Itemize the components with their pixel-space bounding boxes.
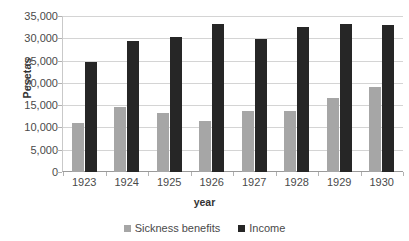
bar-chart: Pesetas 35,00030,00025,00020,00015,00010…: [0, 0, 409, 241]
bar-group: [148, 16, 191, 172]
legend-label: Sickness benefits: [135, 222, 221, 234]
bar-sickness-benefits-1929[interactable]: [327, 98, 339, 172]
y-tick-label: 25,000: [0, 56, 58, 67]
bar-sickness-benefits-1926[interactable]: [199, 121, 211, 172]
x-tick-mark: [233, 172, 234, 176]
x-tick-mark: [63, 172, 64, 176]
y-tick-label: 35,000: [0, 11, 58, 22]
bar-income-1928[interactable]: [297, 27, 309, 172]
bar-sickness-benefits-1924[interactable]: [114, 107, 126, 172]
x-tick-mark: [106, 172, 107, 176]
chart-legend: Sickness benefitsIncome: [0, 222, 409, 234]
bar-sickness-benefits-1930[interactable]: [369, 87, 381, 172]
x-axis-title: year: [0, 196, 409, 208]
bar-income-1926[interactable]: [212, 24, 224, 172]
bar-group: [276, 16, 319, 172]
bar-group: [191, 16, 234, 172]
x-tick-label-1925: 1925: [148, 176, 191, 188]
square-marker-gray: [124, 225, 131, 232]
y-tick-mark: [57, 83, 62, 84]
y-tick-mark: [57, 150, 62, 151]
bar-group: [63, 16, 106, 172]
bar-group: [106, 16, 149, 172]
bar-income-1923[interactable]: [85, 62, 97, 172]
x-tick-mark: [318, 172, 319, 176]
y-tick-mark: [57, 38, 62, 39]
bar-income-1927[interactable]: [255, 39, 267, 172]
bar-sickness-benefits-1927[interactable]: [242, 111, 254, 172]
bar-sickness-benefits-1923[interactable]: [72, 123, 84, 172]
y-tick-label: 5,000: [0, 145, 58, 156]
x-tick-label-1926: 1926: [191, 176, 234, 188]
x-tick-mark: [276, 172, 277, 176]
x-tick-label-1929: 1929: [318, 176, 361, 188]
bar-sickness-benefits-1928[interactable]: [284, 111, 296, 173]
x-tick-label-1923: 1923: [63, 176, 106, 188]
legend-item-income[interactable]: Income: [238, 222, 285, 234]
bar-group: [361, 16, 404, 172]
x-tick-mark: [148, 172, 149, 176]
x-tick-label-1924: 1924: [106, 176, 149, 188]
x-tick-label-1930: 1930: [361, 176, 404, 188]
y-tick-mark: [57, 16, 62, 17]
bar-sickness-benefits-1925[interactable]: [157, 113, 169, 172]
y-tick-mark: [57, 61, 62, 62]
legend-item-sickness-benefits[interactable]: Sickness benefits: [124, 222, 221, 234]
bar-group: [318, 16, 361, 172]
x-axis-labels: 19231924192519261927192819291930: [63, 176, 403, 188]
x-tick-label-1927: 1927: [233, 176, 276, 188]
legend-label: Income: [249, 222, 285, 234]
bar-income-1924[interactable]: [127, 41, 139, 172]
x-tick-mark: [403, 172, 404, 176]
x-tick-mark: [361, 172, 362, 176]
x-tick-label-1928: 1928: [276, 176, 319, 188]
bar-group: [233, 16, 276, 172]
y-tick-mark: [57, 172, 62, 173]
bar-income-1925[interactable]: [170, 37, 182, 172]
square-marker-black: [238, 225, 245, 232]
y-tick-label: 20,000: [0, 78, 58, 89]
y-tick-label: 10,000: [0, 122, 58, 133]
y-tick-mark: [57, 105, 62, 106]
y-tick-label: 15,000: [0, 100, 58, 111]
bar-income-1930[interactable]: [382, 25, 394, 172]
bar-income-1929[interactable]: [340, 24, 352, 172]
x-tick-mark: [191, 172, 192, 176]
y-tick-label: 30,000: [0, 33, 58, 44]
bar-groups: [63, 16, 403, 172]
y-tick-mark: [57, 127, 62, 128]
y-tick-label: 0: [0, 167, 58, 178]
